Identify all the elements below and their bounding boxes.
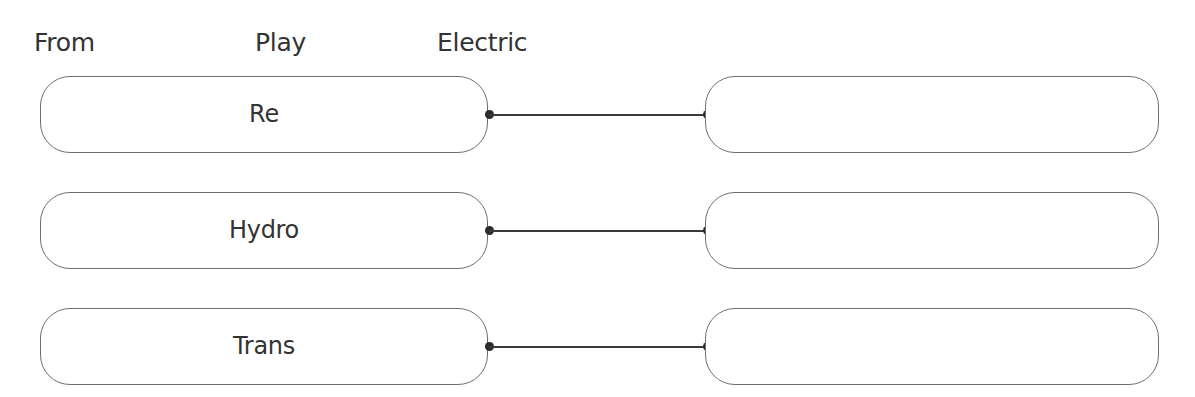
answer-box-2[interactable] [705,192,1159,269]
answer-box-1[interactable] [705,76,1159,153]
connector-line [489,114,707,116]
left-box-hydro[interactable]: Hydro [40,192,488,269]
left-box-label: Trans [233,332,295,360]
left-box-trans[interactable]: Trans [40,308,488,385]
word-from[interactable]: From [34,28,95,58]
connector-line [489,346,707,348]
word-play[interactable]: Play [255,28,306,58]
answer-box-3[interactable] [705,308,1159,385]
connector-line [489,230,707,232]
word-electric[interactable]: Electric [437,28,527,58]
left-box-label: Hydro [229,216,299,244]
left-box-label: Re [249,100,279,128]
left-box-re[interactable]: Re [40,76,488,153]
